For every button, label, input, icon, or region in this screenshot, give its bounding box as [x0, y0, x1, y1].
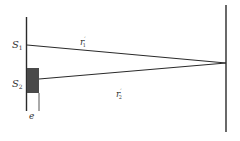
ray-r2	[39, 63, 226, 79]
ray-r1	[27, 45, 226, 63]
label-r1-prime: r′1	[80, 35, 86, 48]
label-s2: S2	[12, 78, 23, 90]
interference-diagram: S1 S2 r′1 r′2 e	[0, 0, 240, 141]
label-thickness-e: e	[29, 111, 34, 121]
label-r2-prime: r′2	[116, 87, 122, 100]
label-s1: S1	[12, 39, 23, 51]
thin-film-plate	[27, 68, 39, 93]
